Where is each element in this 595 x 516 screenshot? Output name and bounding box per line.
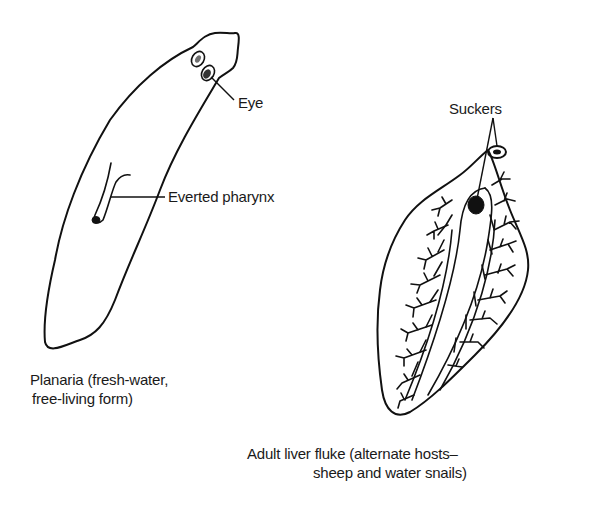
- caption-planaria: Planaria (fresh-water, free-living form): [30, 370, 168, 408]
- pharynx-tip: [92, 217, 100, 224]
- diagram-canvas: Eye Everted pharynx Suckers Planaria (fr…: [0, 0, 595, 516]
- eye-leader-line: [211, 77, 234, 100]
- label-suckers: Suckers: [449, 99, 502, 118]
- flatworm-illustrations: [0, 0, 595, 516]
- caption-fluke-line-2: sheep and water snails): [313, 463, 467, 482]
- fluke-left-branches: [396, 197, 452, 408]
- caption-fluke-line-1: Adult liver fluke (alternate hosts–: [247, 444, 467, 463]
- suckers-leader-oral: [493, 118, 497, 146]
- caption-planaria-line-1: Planaria (fresh-water,: [30, 370, 168, 389]
- caption-liver-fluke: Adult liver fluke (alternate hosts– shee…: [247, 444, 467, 482]
- planaria-pharynx: [94, 163, 130, 222]
- ventral-sucker: [468, 196, 484, 214]
- label-everted-pharynx: Everted pharynx: [168, 187, 274, 206]
- fluke-body-outline: [378, 150, 529, 415]
- liver-fluke-drawing: [378, 118, 529, 415]
- caption-planaria-line-2: free-living form): [32, 389, 168, 408]
- label-eye: Eye: [238, 93, 263, 112]
